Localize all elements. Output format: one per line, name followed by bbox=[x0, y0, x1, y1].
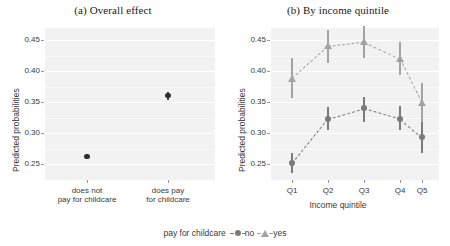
legend-label-no: no bbox=[245, 228, 254, 238]
y-tick-mark bbox=[41, 164, 44, 165]
y-gridline bbox=[45, 71, 215, 72]
y-tick-label: 0.40 bbox=[238, 66, 266, 75]
legend-item-no[interactable]: no bbox=[235, 228, 254, 238]
y-tick-mark bbox=[41, 133, 44, 134]
y-gridline bbox=[45, 164, 215, 165]
triangle-marker-icon bbox=[261, 230, 269, 237]
x-tick-mark bbox=[87, 180, 88, 183]
y-gridline-minor bbox=[271, 118, 439, 119]
y-gridline bbox=[271, 40, 439, 41]
y-gridline bbox=[271, 102, 439, 103]
data-point-yes bbox=[288, 75, 296, 82]
y-gridline-minor bbox=[45, 118, 215, 119]
circle-marker-icon bbox=[235, 230, 241, 236]
y-tick-label: 0.40 bbox=[12, 66, 40, 75]
y-tick-label: 0.25 bbox=[238, 159, 266, 168]
data-point bbox=[84, 154, 90, 160]
x-tick-mark bbox=[168, 180, 169, 183]
y-tick-mark bbox=[267, 164, 270, 165]
y-tick-mark bbox=[267, 133, 270, 134]
data-point-yes bbox=[324, 42, 332, 49]
y-tick-label: 0.45 bbox=[238, 35, 266, 44]
data-point-no bbox=[361, 105, 367, 111]
x-tick-label: Q1 bbox=[277, 186, 307, 195]
data-point bbox=[165, 93, 171, 99]
panel-a-plot-area bbox=[45, 28, 215, 180]
legend-item-yes[interactable]: yes bbox=[261, 228, 286, 238]
y-tick-label: 0.35 bbox=[238, 97, 266, 106]
y-tick-mark bbox=[41, 71, 44, 72]
x-tick-mark bbox=[328, 180, 329, 183]
y-tick-label: 0.30 bbox=[12, 128, 40, 137]
panel-by-income-quintile: (b) By income quintile Predicted probabi… bbox=[226, 0, 450, 218]
data-point-no bbox=[325, 116, 331, 122]
legend: pay for childcare no yes bbox=[0, 224, 450, 242]
y-gridline bbox=[45, 40, 215, 41]
x-tick-label: Q2 bbox=[313, 186, 343, 195]
panel-b-title: (b) By income quintile bbox=[226, 4, 450, 16]
x-tick-label: Q3 bbox=[349, 186, 379, 195]
data-point-no bbox=[397, 116, 403, 122]
y-gridline bbox=[271, 164, 439, 165]
y-gridline-minor bbox=[45, 87, 215, 88]
y-tick-mark bbox=[267, 40, 270, 41]
y-gridline-minor bbox=[45, 149, 215, 150]
legend-label-yes: yes bbox=[273, 228, 286, 238]
y-tick-label: 0.45 bbox=[12, 35, 40, 44]
y-tick-label: 0.35 bbox=[12, 97, 40, 106]
x-tick-mark bbox=[422, 180, 423, 183]
y-gridline bbox=[45, 133, 215, 134]
data-point-yes bbox=[360, 38, 368, 45]
y-tick-mark bbox=[41, 40, 44, 41]
data-point-yes bbox=[418, 99, 426, 106]
y-tick-mark bbox=[267, 71, 270, 72]
panel-b-x-axis-label: Income quintile bbox=[226, 200, 450, 210]
y-gridline bbox=[271, 133, 439, 134]
x-tick-label: Q5 bbox=[407, 186, 437, 195]
y-gridline bbox=[45, 102, 215, 103]
panel-a-title: (a) Overall effect bbox=[0, 4, 226, 16]
x-tick-label: does payfor childcare bbox=[113, 186, 223, 204]
legend-title: pay for childcare bbox=[163, 228, 225, 238]
panel-overall-effect: (a) Overall effect Predicted probabiliti… bbox=[0, 0, 226, 218]
figure-canvas: (a) Overall effect Predicted probabiliti… bbox=[0, 0, 450, 246]
y-tick-mark bbox=[41, 102, 44, 103]
x-tick-mark bbox=[292, 180, 293, 183]
x-tick-mark bbox=[400, 180, 401, 183]
y-tick-label: 0.25 bbox=[12, 159, 40, 168]
data-point-yes bbox=[396, 55, 404, 62]
y-gridline-minor bbox=[271, 56, 439, 57]
y-tick-label: 0.30 bbox=[238, 128, 266, 137]
y-gridline-minor bbox=[45, 56, 215, 57]
y-tick-mark bbox=[267, 102, 270, 103]
x-tick-mark bbox=[364, 180, 365, 183]
y-gridline-minor bbox=[271, 149, 439, 150]
